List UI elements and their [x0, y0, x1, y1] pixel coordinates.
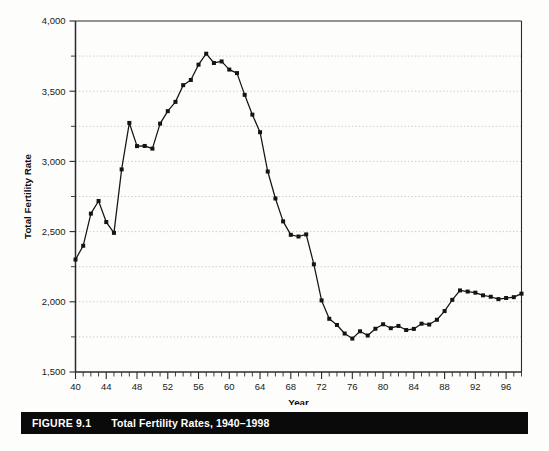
data-point-marker: [396, 324, 400, 328]
data-series-total-fertility-rate: [74, 52, 524, 341]
y-axis-tick-label: 4,000: [42, 15, 66, 26]
y-axis-tick-label: 3,500: [42, 86, 66, 97]
data-point-marker: [427, 323, 431, 327]
data-point-marker: [243, 93, 247, 97]
data-point-marker: [458, 288, 462, 292]
x-axis-tick-label: 56: [193, 381, 204, 392]
x-axis-tick-label: 52: [162, 381, 173, 392]
x-axis-tick-label: 80: [378, 381, 389, 392]
x-axis-tick-label: 96: [501, 381, 512, 392]
figure-title-label: Total Fertility Rates, 1940–1998: [111, 417, 269, 429]
data-point-marker: [266, 170, 270, 174]
data-point-marker: [112, 231, 116, 235]
figure-caption-bar: FIGURE 9.1 Total Fertility Rates, 1940–1…: [21, 412, 528, 434]
data-point-marker: [181, 83, 185, 87]
data-point-marker: [481, 293, 485, 297]
data-point-marker: [289, 233, 293, 237]
data-point-marker: [166, 109, 170, 113]
chart-plot-area: 1,5002,0002,5003,0003,5004,000 404448525…: [0, 0, 549, 405]
data-point-marker: [450, 298, 454, 302]
y-axis-tick-label: 2,500: [42, 226, 66, 237]
data-point-marker: [143, 144, 147, 148]
data-point-marker: [473, 291, 477, 295]
x-axis-tick-label: 84: [409, 381, 420, 392]
data-point-marker: [366, 334, 370, 338]
data-point-marker: [404, 328, 408, 332]
axis-ticks-group: [70, 21, 522, 379]
data-point-marker: [496, 297, 500, 301]
data-point-marker: [297, 235, 301, 239]
data-point-marker: [373, 327, 377, 331]
data-point-marker: [381, 322, 385, 326]
data-point-marker: [273, 196, 277, 200]
data-point-marker: [412, 327, 416, 331]
x-axis-tick-label: 72: [316, 381, 327, 392]
fertility-rate-line-chart: 1,5002,0002,5003,0003,5004,000 404448525…: [0, 0, 549, 405]
data-point-marker: [81, 244, 85, 248]
x-axis-tick-label: 60: [224, 381, 235, 392]
data-point-marker: [135, 144, 139, 148]
data-point-marker: [235, 71, 239, 75]
data-point-marker: [212, 61, 216, 65]
data-point-marker: [489, 295, 493, 299]
x-axis-tick-label: 48: [132, 381, 143, 392]
data-point-marker: [512, 295, 516, 299]
data-point-marker: [220, 59, 224, 63]
data-point-marker: [389, 326, 393, 330]
data-point-marker: [150, 147, 154, 151]
data-point-marker: [304, 232, 308, 236]
x-axis-tick-label: 88: [439, 381, 450, 392]
x-axis-tick-label: 64: [255, 381, 266, 392]
data-point-marker: [504, 296, 508, 300]
data-point-marker: [466, 290, 470, 294]
data-point-marker: [173, 100, 177, 104]
x-axis-tick-label: 68: [286, 381, 297, 392]
data-point-marker: [312, 262, 316, 266]
data-point-marker: [120, 167, 124, 171]
data-point-marker: [320, 298, 324, 302]
y-axis-tick-labels: 1,5002,0002,5003,0003,5004,000: [42, 15, 66, 377]
y-axis-tick-label: 3,000: [42, 156, 66, 167]
data-point-marker: [74, 258, 78, 262]
y-axis-tick-label: 2,000: [42, 296, 66, 307]
data-point-marker: [204, 52, 208, 56]
data-point-marker: [520, 292, 524, 296]
data-point-marker: [158, 122, 162, 126]
data-point-marker: [435, 318, 439, 322]
data-point-marker: [97, 199, 101, 203]
data-point-marker: [104, 220, 108, 224]
data-point-marker: [258, 130, 262, 134]
x-axis-tick-label: 92: [470, 381, 481, 392]
x-axis-tick-label: 76: [347, 381, 358, 392]
x-axis-tick-label: 40: [70, 381, 81, 392]
gridlines-group: [76, 56, 522, 337]
data-point-marker: [350, 337, 354, 341]
data-point-marker: [227, 68, 231, 72]
data-point-marker: [197, 63, 201, 67]
data-point-marker: [250, 113, 254, 117]
data-point-marker: [281, 219, 285, 223]
x-axis-tick-label: 44: [101, 381, 112, 392]
data-point-marker: [327, 317, 331, 321]
figure-container: 1,5002,0002,5003,0003,5004,000 404448525…: [0, 0, 549, 451]
data-point-marker: [335, 323, 339, 327]
x-axis-title: Year: [288, 397, 309, 405]
y-axis-tick-label: 1,500: [42, 366, 66, 377]
data-point-marker: [89, 212, 93, 216]
y-axis-title: Total Fertility Rate: [22, 154, 33, 239]
data-point-marker: [420, 322, 424, 326]
data-point-marker: [189, 78, 193, 82]
data-point-marker: [343, 332, 347, 336]
x-axis-tick-labels: 404448525660646872768084889296: [70, 381, 511, 392]
data-point-marker: [443, 309, 447, 313]
series-polyline: [76, 54, 522, 339]
data-point-marker: [358, 329, 362, 333]
data-point-marker: [127, 121, 131, 125]
figure-number-label: FIGURE 9.1: [32, 417, 91, 429]
